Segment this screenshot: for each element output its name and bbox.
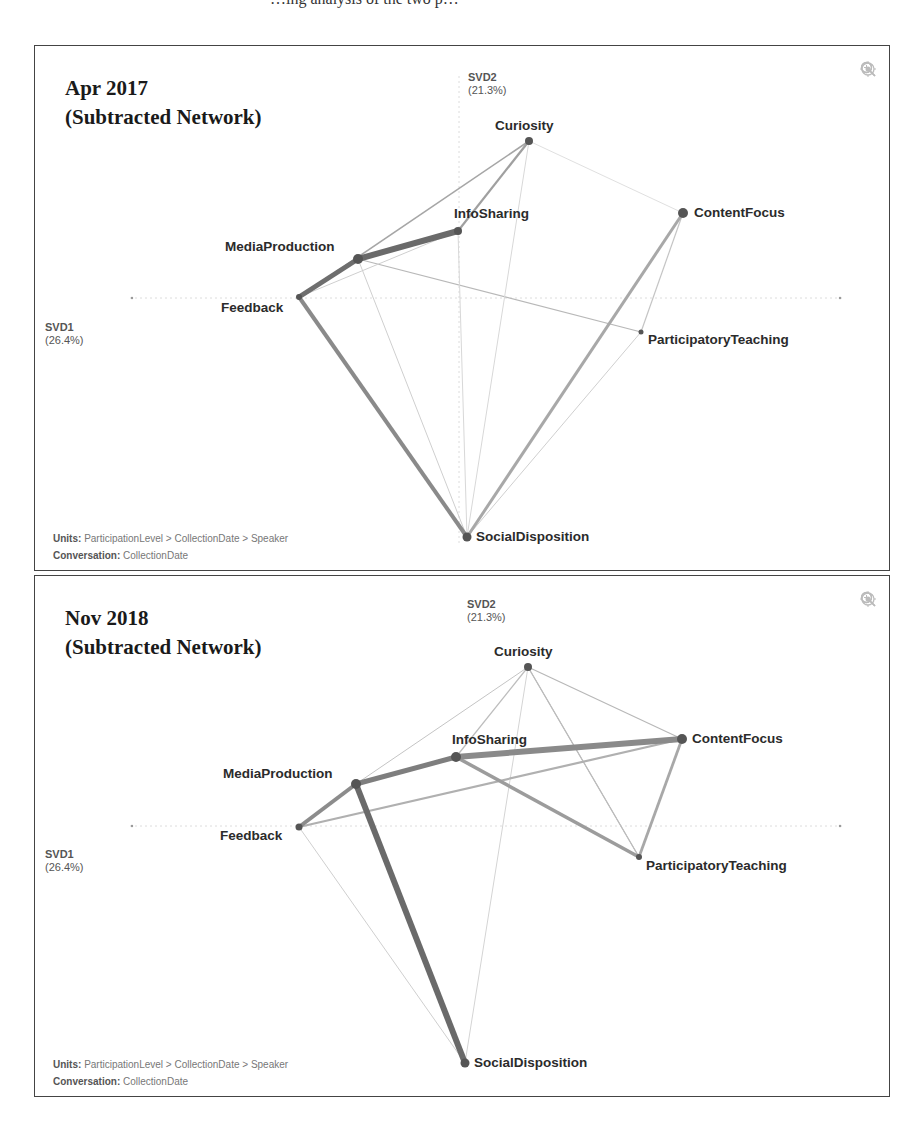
label-participatoryteaching: ParticipatoryTeaching xyxy=(646,858,787,873)
units-value: ParticipationLevel > CollectionDate > Sp… xyxy=(84,1059,288,1070)
label-feedback: Feedback xyxy=(221,300,283,315)
svd2-name: SVD2 xyxy=(468,71,497,83)
panel-footer: Units: ParticipationLevel > CollectionDa… xyxy=(53,530,288,564)
label-curiosity: Curiosity xyxy=(495,118,554,133)
node-participatoryteaching xyxy=(639,330,644,335)
svd1-pct: (26.4%) xyxy=(45,334,84,347)
conversation-line: Conversation: CollectionDate xyxy=(53,1073,288,1090)
recenter-icon[interactable] xyxy=(859,60,877,78)
label-mediaproduction: MediaProduction xyxy=(225,239,335,254)
node-infosharing xyxy=(451,752,461,762)
node-curiosity xyxy=(525,137,533,145)
label-socialdisposition: SocialDisposition xyxy=(474,1055,587,1070)
node-socialdisposition xyxy=(461,1059,470,1068)
label-feedback: Feedback xyxy=(220,828,282,843)
conversation-value: CollectionDate xyxy=(123,1076,188,1087)
conversation-value: CollectionDate xyxy=(123,550,188,561)
network-panel-nov-2018: Nov 2018 (Subtracted Network) SVD2 (21.3… xyxy=(34,575,890,1097)
panel-title-subtitle: (Subtracted Network) xyxy=(65,633,262,662)
units-line: Units: ParticipationLevel > CollectionDa… xyxy=(53,530,288,547)
units-label: Units: xyxy=(53,533,81,544)
node-contentfocus xyxy=(677,734,687,744)
conversation-label: Conversation: xyxy=(53,550,120,561)
svd2-pct: (21.3%) xyxy=(467,611,506,624)
label-infosharing: InfoSharing xyxy=(452,732,527,747)
svd1-axis-label: SVD1 (26.4%) xyxy=(45,321,84,347)
panel-title-date: Apr 2017 xyxy=(65,74,262,103)
panel-title: Nov 2018 (Subtracted Network) xyxy=(65,604,262,662)
conversation-label: Conversation: xyxy=(53,1076,120,1087)
node-curiosity xyxy=(524,663,532,671)
panel-title-subtitle: (Subtracted Network) xyxy=(65,103,262,132)
label-contentfocus: ContentFocus xyxy=(694,205,785,220)
label-curiosity: Curiosity xyxy=(494,644,553,659)
svd1-pct: (26.4%) xyxy=(45,861,84,874)
label-infosharing: InfoSharing xyxy=(454,206,529,221)
label-contentfocus: ContentFocus xyxy=(692,731,783,746)
svd2-pct: (21.3%) xyxy=(468,84,507,97)
units-value: ParticipationLevel > CollectionDate > Sp… xyxy=(84,533,288,544)
svd1-name: SVD1 xyxy=(45,321,74,333)
units-label: Units: xyxy=(53,1059,81,1070)
node-mediaproduction xyxy=(353,254,363,264)
svd2-axis-label: SVD2 (21.3%) xyxy=(468,71,507,97)
node-participatoryteaching xyxy=(636,854,642,860)
panel-title: Apr 2017 (Subtracted Network) xyxy=(65,74,262,132)
conversation-line: Conversation: CollectionDate xyxy=(53,547,288,564)
label-socialdisposition: SocialDisposition xyxy=(476,529,589,544)
panel-title-date: Nov 2018 xyxy=(65,604,262,633)
network-panel-apr-2017: Apr 2017 (Subtracted Network) SVD2 (21.3… xyxy=(34,45,890,571)
node-mediaproduction xyxy=(351,779,361,789)
node-feedback xyxy=(296,824,303,831)
svd2-axis-label: SVD2 (21.3%) xyxy=(467,598,506,624)
label-mediaproduction: MediaProduction xyxy=(223,766,333,781)
node-feedback xyxy=(296,294,302,300)
node-infosharing xyxy=(454,227,462,235)
panel-footer: Units: ParticipationLevel > CollectionDa… xyxy=(53,1056,288,1090)
node-contentfocus xyxy=(678,208,688,218)
svd2-name: SVD2 xyxy=(467,598,496,610)
caption-text: …ing analysis of the two p… xyxy=(270,0,459,8)
recenter-icon[interactable] xyxy=(859,590,877,608)
svd1-axis-label: SVD1 (26.4%) xyxy=(45,848,84,874)
units-line: Units: ParticipationLevel > CollectionDa… xyxy=(53,1056,288,1073)
page-caption-fragment: …ing analysis of the two p… xyxy=(0,0,920,14)
svd1-name: SVD1 xyxy=(45,848,74,860)
node-socialdisposition xyxy=(463,533,472,542)
label-participatoryteaching: ParticipatoryTeaching xyxy=(648,332,789,347)
